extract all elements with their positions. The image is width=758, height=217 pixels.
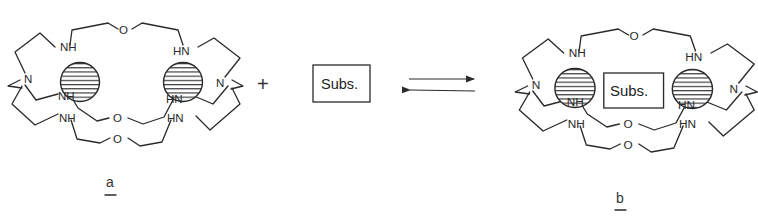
atom-lower-right-hn: HN xyxy=(679,117,696,130)
atom-middle-right-hn: HN xyxy=(166,93,183,105)
atom-bottom-oxygen: O xyxy=(623,138,632,151)
cryptand-a: O NH HN N N NH HN NH HN O O a xyxy=(8,23,243,195)
atom-lower-left-nh: NH xyxy=(59,112,76,124)
atom-right-n: N xyxy=(216,77,224,89)
reaction-scheme: O NH HN N N NH HN NH HN O O a + Subs. Su… xyxy=(0,0,758,217)
label-a: a xyxy=(106,174,114,190)
plus-sign: + xyxy=(257,73,269,95)
atom-middle-oxygen: O xyxy=(113,112,122,124)
atom-left-n: N xyxy=(24,73,32,85)
atom-top-oxygen: O xyxy=(630,29,639,42)
substrate-label: Subs. xyxy=(321,76,358,92)
left-arrow-icon xyxy=(410,90,475,91)
equilibrium-arrows xyxy=(409,79,475,91)
atom-upper-left-nh: NH xyxy=(60,41,77,53)
atom-upper-right-hn: HN xyxy=(685,50,702,63)
atom-middle-right-hn: HN xyxy=(678,98,695,111)
atom-middle-oxygen: O xyxy=(623,117,632,130)
atom-upper-left-nh: NH xyxy=(569,46,586,59)
atom-middle-left-nh: NH xyxy=(58,90,75,102)
atom-left-n: N xyxy=(532,78,541,91)
atom-lower-right-hn: HN xyxy=(167,112,184,124)
label-b: b xyxy=(616,190,624,206)
atom-bottom-oxygen: O xyxy=(113,133,122,145)
substrate: Subs. xyxy=(313,65,370,102)
cryptate-complex-b: Subs. O NH HN N N NH HN NH HN O O xyxy=(515,29,757,152)
bound-substrate-label: Subs. xyxy=(610,83,648,99)
atom-upper-right-hn: HN xyxy=(173,45,190,57)
atom-middle-left-nh: NH xyxy=(567,95,584,108)
atom-right-n: N xyxy=(729,82,738,95)
atom-top-oxygen: O xyxy=(119,24,128,36)
atom-lower-left-nh: NH xyxy=(568,117,585,130)
